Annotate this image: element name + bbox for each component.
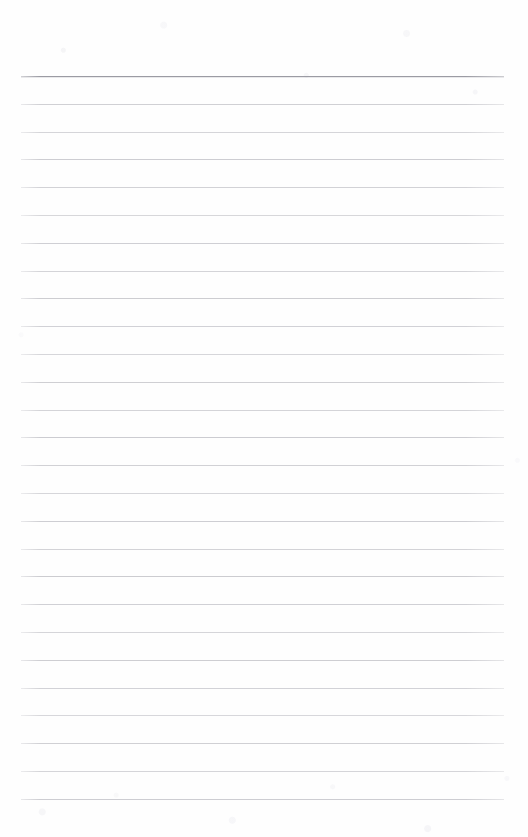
rule-line [21, 159, 504, 160]
rule-line [21, 465, 504, 466]
rule-line [21, 187, 504, 188]
rule-line [21, 104, 504, 105]
rule-line [21, 382, 504, 383]
ruled-lines-group [0, 0, 528, 837]
rule-line [21, 354, 504, 355]
header-rule-line [21, 76, 504, 77]
rule-line [21, 743, 504, 744]
rule-line [21, 243, 504, 244]
rule-line [21, 576, 504, 577]
rule-line [21, 521, 504, 522]
rule-line [21, 660, 504, 661]
rule-line [21, 549, 504, 550]
document-page [0, 0, 528, 837]
rule-line [21, 493, 504, 494]
rule-line [21, 799, 504, 800]
rule-line [21, 215, 504, 216]
rule-line [21, 688, 504, 689]
rule-line [21, 271, 504, 272]
rule-line [21, 298, 504, 299]
rule-line [21, 604, 504, 605]
rule-line [21, 132, 504, 133]
rule-line [21, 437, 504, 438]
rule-line [21, 326, 504, 327]
rule-line [21, 771, 504, 772]
rule-line [21, 410, 504, 411]
rule-line [21, 715, 504, 716]
rule-line [21, 632, 504, 633]
